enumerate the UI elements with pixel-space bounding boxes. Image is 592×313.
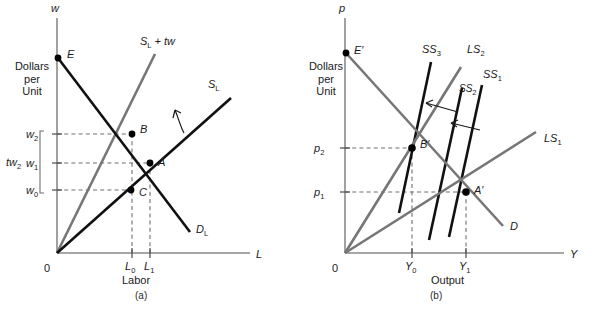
y-axis-title-a: Dollars per Unit — [6, 60, 58, 98]
point-B-prime-label: B′ — [420, 138, 430, 150]
y-tick-label-p2: p2 — [313, 142, 324, 157]
panel-b-caption: (b) — [430, 290, 442, 301]
x-axis-title-b: Output — [431, 274, 464, 286]
curve-label-supply-shifted-a: SL + tw — [140, 35, 176, 50]
y-tick-label-w0: w0 — [26, 184, 38, 199]
x-tick-label-L0: L0 — [125, 260, 135, 275]
point-B-prime-dot — [408, 144, 416, 152]
point-A-label: A — [157, 156, 165, 168]
panel-a-caption: (a) — [135, 290, 147, 301]
curve-label-LS1-b: LS1 — [544, 132, 562, 147]
origin-label-a: 0 — [44, 262, 50, 274]
bracket-label-tw2: tw2 — [6, 156, 21, 171]
bracket-tw2 — [40, 131, 44, 193]
curve-label-demand-b: D — [510, 220, 518, 232]
point-A-prime-dot — [462, 188, 470, 196]
point-E-label: E — [67, 48, 75, 60]
curve-label-demand-labor-a: DL — [196, 223, 208, 238]
y-tick-label-w1: w1 — [26, 157, 38, 172]
point-E-prime-label: E′ — [354, 44, 364, 56]
panel-b-chart: E′ B′ A′ p Y 0 p2 p1 Y0 Y1 Output SS3 LS… — [296, 0, 592, 290]
y-axis-title-b: Dollars per Unit — [300, 60, 352, 98]
point-C-dot — [128, 187, 135, 194]
curve-demand-labor-a — [58, 58, 190, 232]
origin-label-b: 0 — [332, 262, 338, 274]
curve-supply-shifted-a — [57, 54, 155, 253]
y-axis-symbol-a: w — [51, 2, 60, 14]
y-axis-title-a-line3: Unit — [6, 85, 58, 98]
curve-label-SS3-b: SS3 — [422, 43, 441, 58]
curve-LS1-b — [345, 132, 536, 253]
y-axis-title-a-line1: Dollars — [6, 60, 58, 73]
x-tick-label-Y1: Y1 — [459, 260, 471, 275]
y-tick-label-p1: p1 — [313, 186, 324, 201]
curve-label-SS1-b: SS1 — [483, 68, 502, 83]
x-tick-label-Y0: Y0 — [405, 260, 417, 275]
y-axis-symbol-b: p — [338, 2, 345, 14]
point-B-dot — [129, 131, 136, 138]
point-A-prime-label: A′ — [473, 184, 484, 196]
x-axis-title-a: Labor — [122, 274, 150, 286]
x-axis-symbol-b: Y — [570, 248, 578, 260]
point-E-prime-dot — [343, 50, 350, 57]
y-tick-label-w2: w2 — [26, 128, 38, 143]
y-axis-title-a-line2: per — [6, 73, 58, 86]
x-tick-label-L1: L1 — [144, 260, 154, 275]
shift-arrow-b-1 — [426, 100, 458, 112]
curve-label-supply-labor-a: SL — [208, 78, 220, 93]
shift-arrow-a — [173, 110, 184, 133]
y-axis-title-b-line3: Unit — [300, 85, 352, 98]
figure-root: E B A C w L 0 w2 w1 w0 tw2 L0 L1 Labor S… — [0, 0, 592, 313]
point-A-dot — [147, 160, 154, 167]
point-C-label: C — [139, 186, 147, 198]
y-axis-title-b-line1: Dollars — [300, 60, 352, 73]
curve-label-LS2-b: LS2 — [467, 43, 485, 58]
panel-a-chart: E B A C w L 0 w2 w1 w0 tw2 L0 L1 Labor S… — [0, 0, 296, 290]
shift-arrow-b-2 — [451, 120, 480, 130]
y-axis-title-b-line2: per — [300, 73, 352, 86]
x-axis-symbol-a: L — [256, 248, 262, 260]
point-B-label: B — [140, 123, 147, 135]
